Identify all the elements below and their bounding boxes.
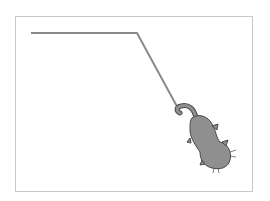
- pen-trail: [31, 33, 180, 112]
- stage-canvas: [0, 0, 270, 201]
- cat-sprite[interactable]: [177, 106, 236, 174]
